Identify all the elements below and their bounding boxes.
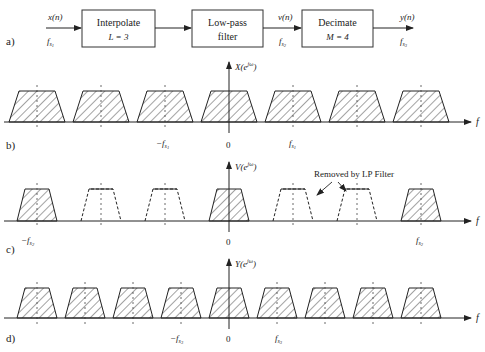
tick-label-fs3: fs3 [275, 333, 283, 345]
decimate-factor: M = 4 [325, 32, 349, 42]
tick-label-fs2: fs2 [416, 235, 424, 247]
panel-label-b: b) [6, 139, 16, 152]
panel-label-d: d) [6, 332, 16, 345]
spectrum-plot-v: V(ejω) f 0 −fs2 fs2 c) Removed by LP Fil… [4, 161, 480, 256]
x-axis-label-y: f [476, 312, 480, 323]
x-axis-label-v: f [476, 215, 480, 226]
annotation-arrow-right [338, 182, 346, 191]
tick-label-fs1: fs1 [289, 138, 296, 150]
annotation-arrow-left [317, 182, 332, 195]
multirate-diagram: a) x(n) fs1 Interpolate L = 3 Low-pass f… [0, 0, 485, 352]
y-axis-label-y: Y(ejω) [235, 258, 256, 269]
y-axis-label-v: V(ejω) [235, 161, 256, 172]
y-axis-label-x: X(ejω) [234, 61, 256, 72]
input-rate-label: fs1 [47, 36, 54, 48]
origin-label-y: 0 [226, 334, 231, 344]
decimate-block-title: Decimate [318, 17, 357, 28]
lowpass-block-line2: filter [218, 31, 238, 42]
mid-signal-label: v(n) [278, 12, 293, 22]
spectrum-plot-y: Y(ejω) f 0 −fs3 fs3 d) [4, 258, 480, 345]
origin-label-v: 0 [226, 237, 231, 247]
tick-label-neg-fs1: −fs1 [156, 138, 169, 150]
interpolate-block-title: Interpolate [97, 17, 141, 28]
spectrum-plot-x: X(ejω) f 0 −fs1 fs1 b) [4, 61, 480, 152]
x-axis-label-x: f [476, 116, 480, 127]
interpolate-factor: L = 3 [108, 32, 129, 42]
block-diagram: a) x(n) fs1 Interpolate L = 3 Low-pass f… [6, 10, 415, 48]
panel-label-a: a) [6, 35, 15, 48]
lowpass-block-line1: Low-pass [208, 17, 247, 28]
panel-label-c: c) [6, 243, 15, 256]
tick-label-neg-fs3: −fs3 [170, 333, 184, 345]
mid-rate-label: fs2 [279, 36, 287, 48]
input-signal-label: x(n) [47, 12, 63, 22]
output-rate-label: fs3 [400, 36, 408, 48]
output-signal-label: y(n) [399, 12, 415, 22]
removed-by-lp-filter-annotation: Removed by LP Filter [314, 169, 394, 179]
origin-label-x: 0 [226, 140, 231, 150]
tick-label-neg-fs2: −fs2 [21, 235, 35, 247]
